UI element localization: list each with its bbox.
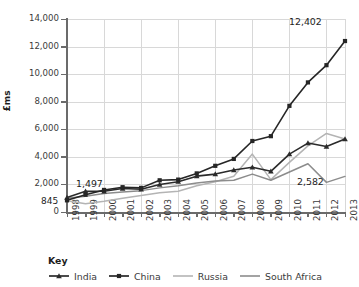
legend-title: Key	[48, 255, 68, 266]
data-point-marker-square	[195, 171, 199, 175]
legend-label: Russia	[198, 271, 228, 282]
x-tick-mark	[104, 212, 106, 217]
x-tick-mark	[233, 212, 235, 217]
x-tick-mark	[215, 212, 217, 217]
data-point-marker-square	[306, 80, 310, 84]
data-point-marker-square	[176, 178, 180, 182]
legend-swatch-south-africa	[239, 271, 261, 281]
data-point-marker-square	[232, 157, 236, 161]
data-point-marker-square	[250, 139, 254, 143]
x-tick-mark	[85, 212, 87, 217]
x-tick-mark	[178, 212, 180, 217]
data-point-marker-square	[343, 39, 347, 43]
data-point-marker-square	[158, 178, 162, 182]
y-tick-label: 2,000	[3, 179, 59, 188]
line-chart: £ms 14,00012,00010,0008,0006,0004,0002,0…	[0, 0, 359, 287]
x-tick-mark	[270, 212, 272, 217]
legend-item-china[interactable]: China	[108, 271, 161, 282]
annotation-india-1999: 1,497	[76, 178, 103, 189]
data-point-marker-square	[117, 274, 121, 278]
data-point-marker-square	[65, 198, 69, 202]
data-point-marker-square	[83, 193, 87, 197]
plot-right-border	[345, 19, 346, 212]
y-tick-label: 4,000	[3, 152, 59, 161]
y-tick-label: 10,000	[3, 69, 59, 78]
x-tick-mark	[122, 212, 124, 217]
legend-label: China	[134, 271, 161, 282]
legend-swatch-russia	[172, 271, 194, 281]
y-tick-label: 12,000	[3, 42, 59, 51]
x-tick-mark	[289, 212, 291, 217]
x-tick-mark	[307, 212, 309, 217]
legend-label: South Africa	[265, 271, 322, 282]
y-tick-label: 6,000	[3, 124, 59, 133]
x-tick-label: 2013	[349, 199, 359, 221]
x-tick-mark	[345, 212, 347, 217]
annotation-china-1998: 845	[41, 196, 58, 206]
data-point-marker-square	[287, 104, 291, 108]
legend-item-south-africa[interactable]: South Africa	[239, 271, 322, 282]
legend-swatch-china	[108, 271, 130, 281]
data-point-marker-square	[121, 185, 125, 189]
data-point-marker-square	[269, 134, 273, 138]
y-tick-label: 0	[3, 207, 59, 216]
legend-swatch-india	[48, 271, 70, 281]
x-tick-mark	[67, 212, 69, 217]
data-point-marker-square	[213, 164, 217, 168]
x-tick-mark	[252, 212, 254, 217]
legend-item-russia[interactable]: Russia	[172, 271, 228, 282]
y-tick-label: 14,000	[3, 14, 59, 23]
x-tick-mark	[326, 212, 328, 217]
y-tick-label: 8,000	[3, 97, 59, 106]
x-tick-mark	[159, 212, 161, 217]
x-tick-mark	[196, 212, 198, 217]
data-point-marker-square	[324, 63, 328, 67]
legend-item-india[interactable]: India	[48, 271, 97, 282]
legend-label: India	[74, 271, 97, 282]
data-point-marker-square	[139, 186, 143, 190]
annotation-china-2013: 12,402	[289, 16, 322, 27]
annotation-southafrica-2013: 2,582	[297, 176, 324, 187]
legend: IndiaChinaRussiaSouth Africa	[48, 268, 353, 284]
x-tick-mark	[141, 212, 143, 217]
